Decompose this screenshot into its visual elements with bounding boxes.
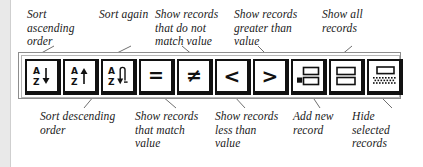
svg-text:Z: Z — [108, 77, 115, 87]
svg-text:A: A — [33, 66, 40, 76]
callout-label-hide-selected-records: Hide selected records — [352, 110, 390, 151]
find-greater-than-button[interactable]: > — [253, 59, 289, 95]
show-all-records-icon — [334, 65, 358, 87]
callout-label-sort-descending: Sort descending order — [40, 110, 115, 137]
svg-text:Z: Z — [33, 77, 40, 87]
sort-again-icon: A Z — [106, 64, 130, 88]
greater-than-icon: > — [258, 64, 282, 88]
sort-ascending-button[interactable]: A Z — [25, 59, 61, 95]
svg-text:A: A — [71, 66, 78, 76]
callout-label-find-greater-than: Show records greater than value — [234, 8, 297, 49]
svg-text:=: = — [148, 64, 164, 86]
find-less-than-button[interactable]: < — [215, 59, 251, 95]
find-equal-button[interactable]: = — [139, 59, 175, 95]
toolbar-button-row: A Z A Z A Z — [21, 55, 400, 98]
show-all-records-button[interactable] — [329, 59, 365, 95]
not-equals-icon: ≠ — [182, 64, 206, 88]
add-record-icon — [296, 65, 321, 87]
equals-icon: = — [144, 64, 168, 88]
callout-label-find-less-than: Show records less than value — [215, 110, 278, 151]
callout-label-sort-ascending: Sort ascending order — [27, 8, 75, 49]
hide-selected-records-button[interactable] — [367, 59, 403, 95]
sort-again-button[interactable]: A Z — [101, 59, 137, 95]
callout-label-sort-again: Sort again — [99, 8, 148, 22]
hide-selected-records-icon — [372, 65, 397, 87]
callout-label-find-not-equal: Show records that do not match value — [155, 8, 218, 49]
sort-descending-icon: A Z — [68, 64, 92, 88]
add-new-record-button[interactable] — [291, 59, 327, 95]
callout-label-add-new-record: Add new record — [293, 110, 334, 137]
svg-text:≠: ≠ — [186, 64, 202, 86]
find-not-equal-button[interactable]: ≠ — [177, 59, 213, 95]
svg-text:A: A — [108, 66, 115, 76]
svg-text:>: > — [262, 64, 279, 88]
less-than-icon: < — [220, 64, 244, 88]
callout-label-show-all-records: Show all records — [322, 8, 363, 35]
sort-descending-button[interactable]: A Z — [63, 59, 99, 95]
callout-label-find-equal: Show records that match value — [135, 110, 198, 151]
page-edge-line — [10, 0, 11, 167]
database-toolbar: A Z A Z A Z — [18, 52, 401, 99]
figure-canvas: Sort ascending order Sort again Show rec… — [0, 0, 423, 167]
svg-text:<: < — [224, 64, 241, 88]
sort-ascending-icon: A Z — [30, 64, 54, 88]
svg-text:Z: Z — [71, 77, 78, 87]
